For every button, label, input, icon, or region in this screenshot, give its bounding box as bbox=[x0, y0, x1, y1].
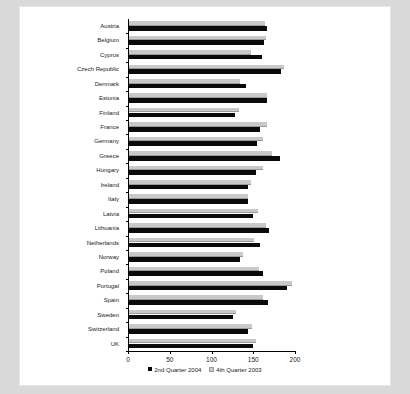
x-axis-tick-label: 0 bbox=[126, 356, 130, 363]
category-label: Netherlands bbox=[87, 240, 119, 246]
bar-q2-2004 bbox=[129, 156, 280, 161]
category-tick bbox=[126, 134, 129, 135]
category-label: Denmark bbox=[95, 81, 119, 87]
bar-q2-2004 bbox=[129, 84, 246, 89]
legend-entry: 4th Quarter 2003 bbox=[209, 367, 261, 373]
bar-q2-2004 bbox=[129, 243, 260, 248]
plot-area bbox=[128, 19, 296, 351]
category-label: Ireland bbox=[101, 182, 119, 188]
category-tick bbox=[126, 322, 129, 323]
bar-q2-2004 bbox=[129, 315, 233, 320]
bar-q2-2004 bbox=[129, 271, 263, 276]
x-axis-tick bbox=[253, 351, 254, 354]
bar-q2-2004 bbox=[129, 127, 260, 132]
category-tick bbox=[126, 149, 129, 150]
category-tick bbox=[126, 264, 129, 265]
category-tick bbox=[126, 221, 129, 222]
x-axis-tick bbox=[128, 351, 129, 354]
bar-q2-2004 bbox=[129, 170, 256, 175]
category-label: UK bbox=[111, 341, 119, 347]
bar-q2-2004 bbox=[129, 344, 253, 349]
bar-q2-2004 bbox=[129, 257, 240, 262]
category-label: Spain bbox=[104, 297, 119, 303]
legend-swatch-q4-2003 bbox=[209, 367, 214, 372]
bar-q2-2004 bbox=[129, 300, 268, 305]
category-tick bbox=[126, 62, 129, 63]
category-tick bbox=[126, 91, 129, 92]
category-tick bbox=[126, 250, 129, 251]
bar-q2-2004 bbox=[129, 329, 248, 334]
legend-swatch-q2-2004 bbox=[148, 367, 152, 371]
bar-q2-2004 bbox=[129, 69, 281, 74]
chart-panel: AustriaBelgiumCyprusCzech RepublicDenmar… bbox=[20, 7, 390, 385]
x-axis-tick-label: 50 bbox=[166, 356, 173, 363]
x-axis-tick bbox=[170, 351, 171, 354]
category-label: Switzerland bbox=[88, 326, 119, 332]
category-label: Czech Republic bbox=[77, 66, 119, 72]
legend-entry: 2nd Quarter 2004 bbox=[148, 367, 201, 373]
category-tick bbox=[126, 308, 129, 309]
category-label: Portugal bbox=[97, 283, 119, 289]
category-tick bbox=[126, 192, 129, 193]
category-label: Italy bbox=[108, 196, 119, 202]
chart-legend: 2nd Quarter 20044th Quarter 2003 bbox=[20, 367, 390, 373]
bar-q2-2004 bbox=[129, 40, 264, 45]
category-tick bbox=[126, 178, 129, 179]
category-label: Norway bbox=[99, 254, 119, 260]
category-tick bbox=[126, 77, 129, 78]
category-tick bbox=[126, 163, 129, 164]
x-axis-tick-label: 200 bbox=[290, 356, 301, 363]
category-label: Germany bbox=[94, 138, 119, 144]
x-axis-tick bbox=[212, 351, 213, 354]
category-label: Finland bbox=[99, 110, 119, 116]
category-tick bbox=[126, 236, 129, 237]
category-label: Cyprus bbox=[100, 52, 119, 58]
legend-label: 4th Quarter 2003 bbox=[216, 367, 261, 373]
category-label: Sweden bbox=[97, 312, 119, 318]
category-label: France bbox=[100, 124, 119, 130]
category-tick bbox=[126, 120, 129, 121]
bar-q2-2004 bbox=[129, 55, 262, 60]
bar-q2-2004 bbox=[129, 141, 257, 146]
category-label: Latvia bbox=[103, 211, 119, 217]
category-label: Hungary bbox=[96, 167, 119, 173]
x-axis-tick-label: 150 bbox=[248, 356, 259, 363]
bar-q2-2004 bbox=[129, 98, 267, 103]
bar-q2-2004 bbox=[129, 214, 253, 219]
category-tick bbox=[126, 207, 129, 208]
category-label: Estonia bbox=[99, 95, 119, 101]
x-axis: 050100150200 bbox=[128, 351, 296, 352]
category-label: Lithuania bbox=[95, 225, 119, 231]
category-label: Belgium bbox=[97, 37, 119, 43]
x-axis-tick-label: 100 bbox=[206, 356, 217, 363]
category-tick bbox=[126, 48, 129, 49]
category-label: Austria bbox=[100, 23, 119, 29]
category-axis-labels: AustriaBelgiumCyprusCzech RepublicDenmar… bbox=[20, 19, 124, 351]
category-tick bbox=[126, 33, 129, 34]
x-axis-tick bbox=[295, 351, 296, 354]
category-tick bbox=[126, 337, 129, 338]
category-tick bbox=[126, 106, 129, 107]
category-tick bbox=[126, 279, 129, 280]
category-tick bbox=[126, 293, 129, 294]
bar-q2-2004 bbox=[129, 286, 287, 291]
bar-q2-2004 bbox=[129, 185, 248, 190]
bar-q2-2004 bbox=[129, 113, 235, 118]
bar-q2-2004 bbox=[129, 199, 248, 204]
legend-label: 2nd Quarter 2004 bbox=[154, 367, 201, 373]
category-label: Greece bbox=[99, 153, 119, 159]
bar-q2-2004 bbox=[129, 26, 267, 31]
bar-q2-2004 bbox=[129, 228, 269, 233]
category-label: Poland bbox=[100, 268, 119, 274]
